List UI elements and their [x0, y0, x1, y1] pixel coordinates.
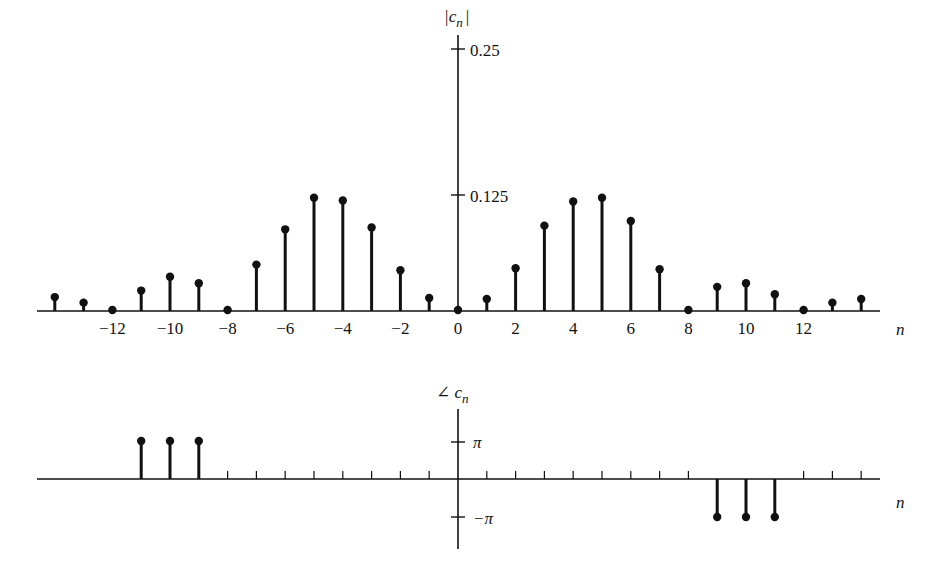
- phase-plot: π −π ∠ cn n: [37, 383, 905, 549]
- magnitude-stem: [598, 194, 606, 311]
- magnitude-stem: [742, 279, 750, 311]
- magnitude-stem: [799, 306, 807, 314]
- phase-stem: [742, 479, 750, 521]
- magnitude-stem: [655, 265, 663, 311]
- magnitude-stem: [828, 298, 836, 311]
- phase-x-label: n: [896, 493, 905, 512]
- magnitude-stem: [281, 225, 289, 311]
- magnitude-stem: [483, 295, 491, 311]
- phase-stem: [771, 479, 779, 521]
- magnitude-x-label: n: [896, 320, 905, 339]
- phase-tick-label-minus-pi: −π: [473, 509, 493, 528]
- magnitude-stem: [367, 223, 375, 311]
- magnitude-plot: 0.25 0.125 |cn| n −12−10−8−6−4−202468101…: [37, 7, 905, 339]
- magnitude-x-tick-label: 0: [454, 319, 463, 338]
- magnitude-x-tick-label: −2: [391, 319, 409, 338]
- magnitude-stem: [252, 260, 260, 311]
- magnitude-stem: [684, 306, 692, 314]
- magnitude-stem: [195, 279, 203, 311]
- magnitude-x-tick-label: 2: [511, 319, 520, 338]
- magnitude-stem: [713, 283, 721, 311]
- magnitude-tick-label-0-25: 0.25: [470, 41, 500, 60]
- magnitude-stem: [51, 293, 59, 311]
- phase-stem: [713, 479, 721, 521]
- phase-stem: [137, 437, 145, 479]
- magnitude-x-tick-label: 12: [795, 319, 812, 338]
- magnitude-x-tick-label: 6: [627, 319, 636, 338]
- magnitude-stem: [310, 194, 318, 311]
- magnitude-x-tick-label: −12: [99, 319, 126, 338]
- magnitude-x-tick-label: −6: [276, 319, 294, 338]
- magnitude-stem: [569, 197, 577, 311]
- magnitude-stem: [454, 306, 462, 314]
- magnitude-x-tick-label: −8: [219, 319, 237, 338]
- magnitude-stem: [857, 295, 865, 311]
- magnitude-tick-label-0-125: 0.125: [470, 187, 508, 206]
- magnitude-x-tick-label: 4: [569, 319, 578, 338]
- magnitude-stem: [396, 266, 404, 311]
- phase-y-label: ∠ cn: [436, 383, 469, 406]
- magnitude-stem: [511, 264, 519, 311]
- magnitude-stem: [108, 306, 116, 314]
- magnitude-y-label: |cn|: [444, 7, 469, 30]
- magnitude-x-tick-label: −10: [157, 319, 184, 338]
- magnitude-stem: [627, 217, 635, 311]
- magnitude-x-tick-label: 10: [738, 319, 755, 338]
- phase-x-ticks: [228, 471, 862, 479]
- magnitude-x-tick-labels: −12−10−8−6−4−2024681012: [99, 319, 812, 338]
- fourier-coefficient-chart: 0.25 0.125 |cn| n −12−10−8−6−4−202468101…: [0, 0, 945, 572]
- magnitude-stem: [540, 221, 548, 311]
- phase-stem: [195, 437, 203, 479]
- magnitude-x-tick-label: 8: [684, 319, 693, 338]
- magnitude-stem: [79, 298, 87, 311]
- phase-stem: [166, 437, 174, 479]
- magnitude-stem: [166, 272, 174, 311]
- magnitude-stem: [223, 306, 231, 314]
- magnitude-stem: [137, 286, 145, 311]
- magnitude-x-tick-label: −4: [334, 319, 353, 338]
- magnitude-stem: [339, 196, 347, 311]
- phase-tick-label-pi: π: [473, 433, 482, 452]
- magnitude-stem: [425, 294, 433, 311]
- magnitude-stem: [771, 290, 779, 311]
